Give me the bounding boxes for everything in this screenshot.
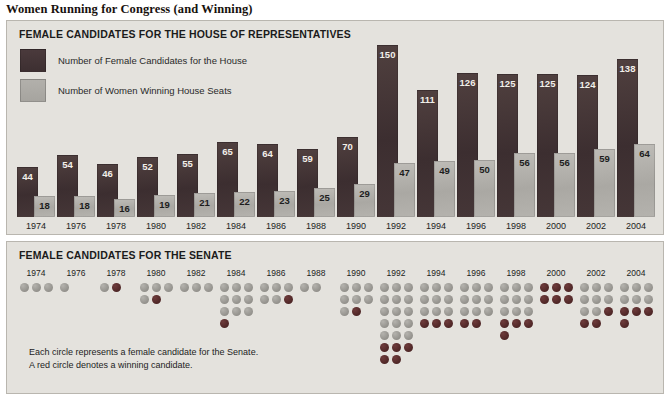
candidate-dot-losing: [592, 295, 601, 304]
infographic-root: Women Running for Congress (and Winning)…: [0, 0, 670, 400]
candidate-dot-losing: [444, 295, 453, 304]
candidate-dot-losing: [404, 295, 413, 304]
candidate-dot-losing: [620, 295, 629, 304]
candidate-dot-losing: [404, 331, 413, 340]
senate-panel: FEMALE CANDIDATES FOR THE SENATE 1974197…: [6, 241, 664, 394]
senate-year-label: 1974: [14, 267, 58, 279]
senate-dot-grid: [458, 281, 494, 329]
candidate-dot-winning: [392, 355, 401, 364]
senate-dot-grid: [618, 281, 654, 329]
bar-value-winners: 18: [75, 201, 94, 211]
candidate-dot-losing: [352, 283, 361, 292]
axis-year-label: 1986: [257, 221, 295, 231]
candidate-dot-losing: [140, 283, 149, 292]
candidate-dot-losing: [232, 283, 241, 292]
candidate-dot-winning: [620, 319, 629, 328]
bar-group: 5219: [137, 45, 175, 217]
candidate-dot-losing: [392, 319, 401, 328]
candidate-dot-losing: [220, 295, 229, 304]
senate-dot-grid: [58, 281, 94, 293]
candidate-dot-losing: [420, 283, 429, 292]
candidate-dot-winning: [284, 295, 293, 304]
candidate-dot-losing: [444, 307, 453, 316]
senate-year-column: 1998: [494, 267, 538, 341]
candidate-dot-winning: [524, 319, 533, 328]
candidate-dot-losing: [500, 295, 509, 304]
senate-panel-title: FEMALE CANDIDATES FOR THE SENATE: [19, 249, 232, 261]
axis-year-label: 2002: [577, 221, 615, 231]
senate-year-label: 2000: [534, 267, 578, 279]
bar-value-candidates: 125: [538, 79, 557, 89]
bar-value-winners: 23: [275, 196, 294, 206]
candidate-dot-losing: [432, 295, 441, 304]
bar-winners: 59: [594, 149, 615, 217]
candidate-dot-losing: [220, 307, 229, 316]
senate-year-label: 1978: [94, 267, 138, 279]
candidate-dot-losing: [404, 319, 413, 328]
candidate-dot-losing: [420, 295, 429, 304]
candidate-dot-winning: [552, 283, 561, 292]
candidate-dot-losing: [220, 283, 229, 292]
candidate-dot-losing: [444, 283, 453, 292]
bar-group: 5925: [297, 45, 335, 217]
candidate-dot-losing: [352, 295, 361, 304]
axis-year-label: 1998: [497, 221, 535, 231]
axis-year-label: 1994: [417, 221, 455, 231]
senate-dot-grid: [538, 281, 574, 305]
bar-value-winners: 50: [475, 165, 494, 175]
candidate-dot-losing: [140, 295, 149, 304]
candidate-dot-losing: [60, 283, 69, 292]
bar-group: 5418: [57, 45, 95, 217]
senate-year-column: 1994: [414, 267, 458, 329]
candidate-dot-losing: [632, 283, 641, 292]
bar-winners: 18: [34, 196, 55, 217]
candidate-dot-winning: [644, 307, 653, 316]
candidate-dot-winning: [112, 283, 121, 292]
candidate-dot-losing: [620, 283, 629, 292]
senate-year-column: 1990: [334, 267, 378, 317]
candidate-dot-winning: [564, 295, 573, 304]
bar-value-candidates: 65: [218, 147, 237, 157]
bar-winners: 50: [474, 160, 495, 217]
house-x-axis: 1974197619781980198219841986198819901992…: [16, 221, 656, 235]
candidate-dot-losing: [404, 307, 413, 316]
candidate-dot-losing: [20, 283, 29, 292]
house-panel: FEMALE CANDIDATES FOR THE HOUSE OF REPRE…: [6, 20, 664, 235]
candidate-dot-losing: [380, 307, 389, 316]
candidate-dot-losing: [500, 307, 509, 316]
bar-value-candidates: 44: [18, 172, 37, 182]
bar-value-candidates: 59: [298, 154, 317, 164]
house-panel-title: FEMALE CANDIDATES FOR THE HOUSE OF REPRE…: [19, 28, 351, 40]
candidate-dot-winning: [352, 307, 361, 316]
bar-value-winners: 29: [355, 189, 374, 199]
candidate-dot-losing: [244, 307, 253, 316]
candidate-dot-winning: [460, 319, 469, 328]
bar-group: 4418: [17, 45, 55, 217]
candidate-dot-losing: [524, 295, 533, 304]
candidate-dot-winning: [552, 295, 561, 304]
candidate-dot-winning: [580, 319, 589, 328]
axis-year-label: 1980: [137, 221, 175, 231]
bar-value-candidates: 54: [58, 160, 77, 170]
candidate-dot-winning: [380, 355, 389, 364]
senate-dot-grid: [378, 281, 414, 365]
candidate-dot-losing: [472, 295, 481, 304]
candidate-dot-winning: [472, 319, 481, 328]
senate-year-label: 1986: [254, 267, 298, 279]
candidate-dot-winning: [512, 319, 521, 328]
candidate-dot-losing: [472, 283, 481, 292]
candidate-dot-losing: [380, 295, 389, 304]
bar-value-candidates: 46: [98, 169, 117, 179]
bar-winners: 16: [114, 199, 135, 217]
candidate-dot-losing: [32, 283, 41, 292]
senate-dot-grid: [178, 281, 214, 293]
bar-value-winners: 59: [595, 154, 614, 164]
candidate-dot-losing: [100, 283, 109, 292]
senate-year-column: 1978: [94, 267, 138, 293]
candidate-dot-losing: [432, 283, 441, 292]
senate-dot-grid: [258, 281, 294, 305]
candidate-dot-losing: [204, 283, 213, 292]
bar-winners: 25: [314, 188, 335, 217]
bar-value-candidates: 55: [178, 159, 197, 169]
axis-year-label: 1976: [57, 221, 95, 231]
